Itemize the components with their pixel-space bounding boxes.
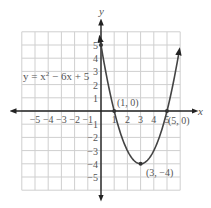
y-tick-label: −1 [87,119,98,130]
x-tick-label: −5 [30,114,41,125]
point-dot [139,162,143,166]
y-tick-label: −5 [87,172,98,183]
y-axis-label: y [98,5,104,17]
x-tick-label: 2 [125,114,130,125]
parabola-graph: −5−4−3−2−11234554321−1−2−3−4−5 y = x2 − … [0,0,211,208]
point-dot [99,43,103,47]
point-label-5-0: (5, 0) [168,115,190,127]
x-tick-label: −4 [43,114,54,125]
x-tick-label: −2 [69,114,80,125]
point-dot [112,109,116,113]
y-tick-label: 1 [93,93,98,104]
y-tick-label: 2 [93,80,98,91]
point-label-1-0: (1, 0) [117,97,139,109]
y-tick-label: 4 [93,53,98,64]
y-tick-label: −4 [87,159,98,170]
x-tick-label: 4 [151,114,156,125]
x-tick-label: −3 [56,114,67,125]
y-tick-label: 5 [93,40,98,51]
y-tick-label: 3 [93,66,98,77]
point-label-3-neg4: (3, −4) [146,167,173,179]
y-tick-label: −2 [87,132,98,143]
equation-label: y = x2 − 6x + 5 [23,70,90,82]
point-dot [165,109,169,113]
y-tick-label: −3 [87,146,98,157]
x-tick-label: 3 [138,114,143,125]
x-axis-label: x [197,105,203,117]
